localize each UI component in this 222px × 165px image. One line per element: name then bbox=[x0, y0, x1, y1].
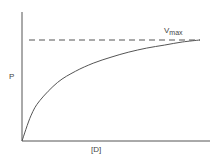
y-axis-label: P bbox=[9, 73, 14, 81]
saturation-chart bbox=[0, 0, 222, 165]
vmax-annotation: Vmax bbox=[164, 27, 183, 35]
saturation-curve bbox=[22, 40, 200, 141]
x-axis-label: [D] bbox=[91, 146, 101, 154]
vmax-subscript: max bbox=[169, 29, 182, 36]
